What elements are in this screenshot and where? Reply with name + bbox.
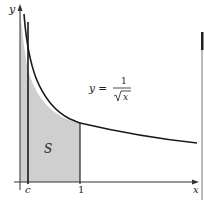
- shaded-region-s: [20, 10, 80, 182]
- region-label-s: S: [44, 142, 52, 156]
- equation-numerator: 1: [121, 76, 127, 86]
- y-axis-arrow-icon: [18, 4, 23, 11]
- right-border-cap: [201, 32, 204, 50]
- y-axis-label: y: [8, 3, 16, 16]
- equation-label: y = 1 x: [88, 76, 131, 102]
- tick-label-1: 1: [78, 184, 84, 195]
- x-axis-label: x: [193, 184, 199, 195]
- equation-radicand: x: [123, 92, 128, 102]
- improper-integral-diagram: y x c 1 S y = 1 x: [0, 0, 204, 208]
- tick-label-c: c: [25, 184, 31, 195]
- equation-lhs: y =: [88, 82, 107, 94]
